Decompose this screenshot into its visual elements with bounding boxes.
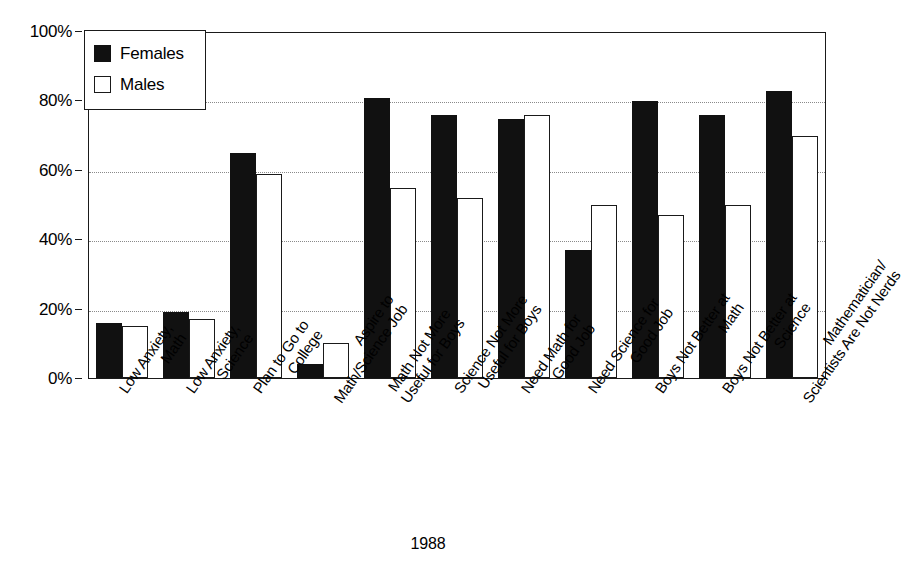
bar-females-5 <box>431 115 457 378</box>
y-tick-mark-80 <box>75 100 82 101</box>
legend-entry-females: Females <box>94 38 205 69</box>
y-tick-mark-40 <box>75 239 82 240</box>
bar-females-0 <box>96 323 122 378</box>
legend-label-females: Females <box>120 45 184 62</box>
y-tick-label-60: 60% <box>39 162 72 179</box>
y-tick-label-0: 0% <box>48 370 72 387</box>
bar-males-0 <box>122 326 148 378</box>
x-axis-title: 1988 <box>393 535 463 553</box>
chart-legend: Females Males <box>84 30 206 110</box>
y-tick-mark-60 <box>75 170 82 171</box>
y-tick-mark-100 <box>75 31 82 32</box>
bar-males-8 <box>658 215 684 378</box>
bar-males-2 <box>256 174 282 378</box>
bar-males-4 <box>390 188 416 378</box>
legend-entry-males: Males <box>94 69 205 100</box>
bar-males-3 <box>323 343 349 378</box>
bar-group <box>498 32 550 378</box>
bar-males-5 <box>457 198 483 378</box>
y-tick-label-80: 80% <box>39 92 72 109</box>
bar-males-7 <box>591 205 617 378</box>
bar-males-6 <box>524 115 550 378</box>
bar-females-10 <box>766 91 792 378</box>
bar-group <box>766 32 818 378</box>
y-tick-mark-0 <box>75 378 82 379</box>
bar-males-10 <box>792 136 818 378</box>
y-tick-label-100: 100% <box>30 23 72 40</box>
bar-group <box>431 32 483 378</box>
bar-females-9 <box>699 115 725 378</box>
legend-label-males: Males <box>120 76 164 93</box>
bar-females-4 <box>364 98 390 378</box>
y-tick-label-20: 20% <box>39 301 72 318</box>
bar-group <box>699 32 751 378</box>
bar-males-1 <box>189 319 215 378</box>
bar-group <box>230 32 282 378</box>
y-axis: 0%20%40%60%80%100% <box>0 32 82 379</box>
bar-group <box>364 32 416 378</box>
bar-males-9 <box>725 205 751 378</box>
bar-females-2 <box>230 153 256 378</box>
legend-swatch-females-icon <box>94 45 111 62</box>
y-tick-mark-20 <box>75 309 82 310</box>
bar-females-6 <box>498 119 524 379</box>
bar-group <box>565 32 617 378</box>
bar-females-7 <box>565 250 591 378</box>
bar-females-8 <box>632 101 658 378</box>
bar-females-3 <box>297 364 323 378</box>
legend-swatch-males-icon <box>94 76 111 93</box>
bar-group <box>297 32 349 378</box>
bar-females-1 <box>163 312 189 378</box>
bar-group <box>632 32 684 378</box>
y-tick-label-40: 40% <box>39 231 72 248</box>
